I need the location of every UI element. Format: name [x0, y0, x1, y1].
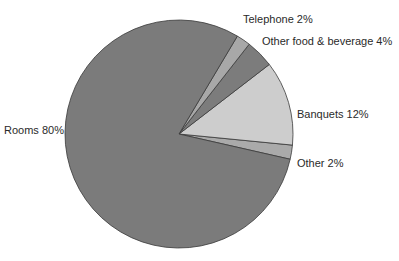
label-rooms: Rooms 80%	[4, 124, 64, 136]
label-telephone: Telephone 2%	[243, 13, 313, 25]
label-banquets: Banquets 12%	[297, 108, 369, 120]
label-other-food-beverage: Other food & beverage 4%	[262, 35, 392, 47]
label-other: Other 2%	[297, 157, 343, 169]
